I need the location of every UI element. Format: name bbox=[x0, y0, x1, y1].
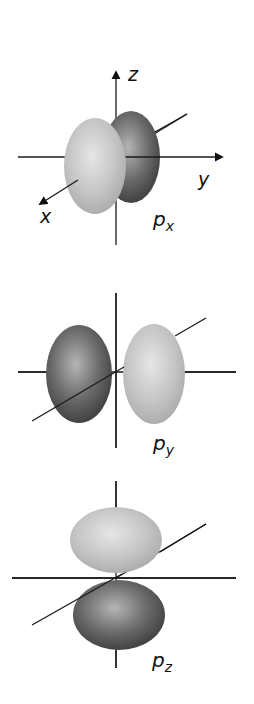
panel-pz: pz bbox=[12, 481, 236, 675]
x-axis-label: x bbox=[39, 205, 52, 227]
px-light-lobe bbox=[64, 118, 126, 214]
y-axis-label: y bbox=[197, 168, 210, 190]
py-light-lobe bbox=[123, 324, 185, 424]
px-label: px bbox=[152, 207, 175, 234]
orbital-diagram: z y x px py bbox=[0, 0, 254, 704]
pz-light-lobe bbox=[70, 507, 162, 573]
py-dark-lobe bbox=[46, 325, 112, 423]
panel-px: z y x px bbox=[18, 63, 222, 245]
pz-dark-lobe bbox=[73, 580, 165, 650]
panel-py: py bbox=[18, 293, 236, 458]
py-label: py bbox=[152, 431, 175, 458]
pz-label: pz bbox=[151, 648, 173, 675]
z-axis-label: z bbox=[127, 63, 139, 85]
